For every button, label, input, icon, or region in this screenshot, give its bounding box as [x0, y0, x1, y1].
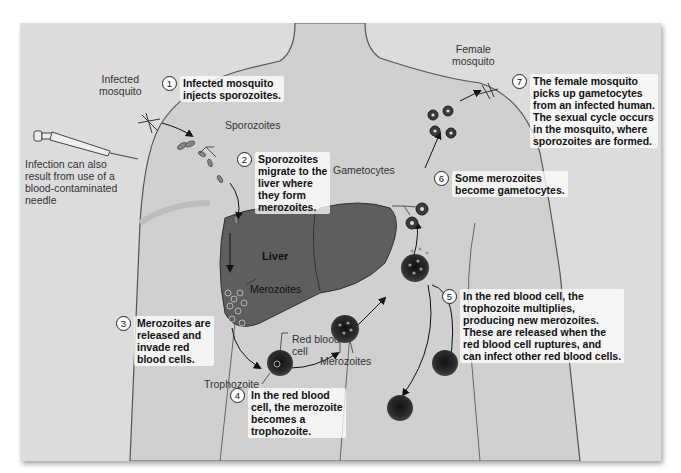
- merozoites-liver-label: Merozoites: [250, 283, 301, 295]
- needle-note: Infection can also result from use of a …: [25, 158, 117, 206]
- step-7-text: The female mosquito picks up gametocytes…: [533, 75, 655, 147]
- step-4-text: In the red blood cell, the merozoite bec…: [251, 389, 343, 437]
- step-5: 5 In the red blood cell, the trophozoite…: [460, 289, 624, 363]
- sporozoites-label: Sporozoites: [225, 119, 280, 131]
- step-2-number: 2: [237, 152, 252, 167]
- step-2-text: Sporozoites migrate to the liver where t…: [258, 153, 327, 213]
- step-1-text: Infected mosquito injects sporozoites.: [183, 77, 281, 101]
- syringe-icon: [34, 131, 138, 159]
- red-blood-cell-label: Red blood cell: [292, 333, 340, 357]
- step-5-text: In the red blood cell, the trophozoite m…: [463, 290, 621, 362]
- female-mosquito-label: Female mosquito: [452, 43, 495, 67]
- infected-mosquito-icon: [138, 113, 160, 133]
- infected-mosquito-label: Infected mosquito: [99, 73, 142, 97]
- step-5-number: 5: [442, 289, 457, 304]
- merozoites-blood-label: Merozoites: [320, 355, 371, 367]
- step-2: 2 Sporozoites migrate to the liver where…: [255, 152, 330, 214]
- step-6: 6 Some merozoites become gametocytes.: [452, 171, 568, 197]
- diagram-panel: Infected mosquito Female mosquito Sporoz…: [20, 23, 661, 461]
- step-7: 7 The female mosquito picks up gametocyt…: [530, 74, 658, 148]
- step-4: 4 In the red blood cell, the merozoite b…: [248, 388, 346, 438]
- step-6-text: Some merozoites become gametocytes.: [455, 172, 565, 196]
- step-1: 1 Infected mosquito injects sporozoites.: [180, 76, 284, 102]
- step-7-number: 7: [512, 74, 527, 89]
- step-3-text: Merozoites are released and invade red b…: [137, 317, 211, 365]
- step-1-number: 1: [162, 76, 177, 91]
- gametocytes-label: Gametocytes: [333, 164, 395, 176]
- step-6-number: 6: [434, 171, 449, 186]
- step-3: 3 Merozoites are released and invade red…: [134, 316, 214, 366]
- step-4-number: 4: [230, 388, 245, 403]
- step-3-number: 3: [116, 316, 131, 331]
- liver-label: Liver: [262, 250, 288, 262]
